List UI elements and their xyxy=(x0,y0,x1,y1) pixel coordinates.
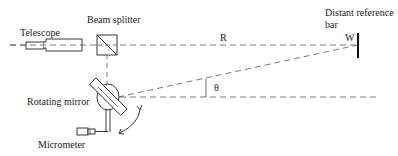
micrometer-icon xyxy=(77,128,108,135)
distant-reference-bar-label-line1: Distant reference xyxy=(325,7,394,18)
beam-splitter-label: Beam splitter xyxy=(87,14,141,25)
optical-lever-diagram xyxy=(0,0,398,156)
angle-label: θ xyxy=(214,82,219,93)
rotating-mirror-icon xyxy=(90,78,127,132)
distance-label: R xyxy=(220,32,227,43)
distant-reference-bar-label-line2: bar xyxy=(325,19,338,30)
telescope-label: Telescope xyxy=(20,27,60,38)
rotating-mirror-label: Rotating mirror xyxy=(27,96,90,107)
beam-splitter-icon xyxy=(97,35,117,55)
reflected-ray-line xyxy=(118,45,358,97)
telescope-icon xyxy=(10,39,82,51)
micrometer-label: Micrometer xyxy=(38,139,85,150)
width-label: W xyxy=(345,32,354,43)
